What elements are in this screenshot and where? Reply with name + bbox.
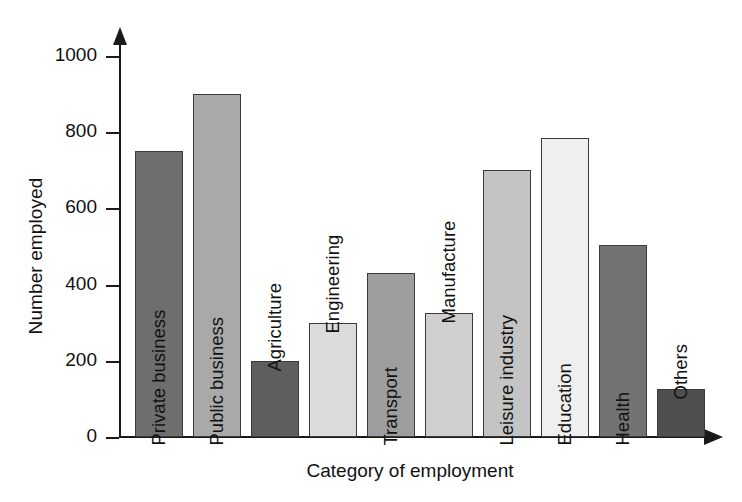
bar-category-label: Health [614, 392, 633, 445]
y-axis-tick-mark [106, 437, 119, 439]
y-axis-tick-label: 800 [35, 120, 97, 142]
bar-category-label: Engineering [324, 234, 343, 333]
plot-area: 02004006008001000 Private businessPublic… [0, 0, 742, 502]
bar-category-label: Public business [208, 317, 227, 446]
x-axis-arrow-icon [704, 429, 723, 445]
bar-category-label: Agriculture [266, 283, 285, 371]
y-axis-arrow-icon [113, 27, 127, 45]
bar-category-label: Others [672, 344, 691, 400]
bar [309, 323, 357, 437]
y-axis-tick-label: 1000 [35, 44, 97, 66]
x-axis-title: Category of employment [120, 460, 700, 482]
y-axis-tick-label: 600 [35, 196, 97, 218]
bar-category-label: Education [556, 363, 575, 445]
bar [251, 361, 299, 437]
y-axis-tick-mark [106, 56, 119, 58]
bar-category-label: Transport [382, 367, 401, 445]
y-axis-tick-label: 200 [35, 349, 97, 371]
bar-chart: Number employed 02004006008001000 Privat… [0, 0, 742, 502]
bar-category-label: Private business [150, 310, 169, 446]
y-axis-tick-mark [106, 285, 119, 287]
bar [425, 313, 473, 437]
y-axis-tick-mark [106, 361, 119, 363]
y-axis-tick-label: 400 [35, 273, 97, 295]
y-axis-tick-mark [106, 208, 119, 210]
bar-category-label: Manufacture [440, 221, 459, 324]
y-axis-line [119, 42, 121, 438]
y-axis-tick-mark [106, 132, 119, 134]
y-axis-tick-label: 0 [35, 425, 97, 447]
bar-category-label: Leisure industry [498, 315, 517, 446]
